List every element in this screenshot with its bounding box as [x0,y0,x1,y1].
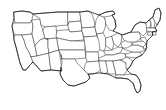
state-ar: Arkansas [86,52,99,62]
us-outline-map-figure: WashingtonOregonCaliforniaNevadaIdahoMon… [0,0,166,110]
state-wa: Washington [14,11,33,23]
us-map-svg: WashingtonOregonCaliforniaNevadaIdahoMon… [0,0,166,110]
state-wy: Wyoming [43,26,57,39]
state-sd: South Dakota [68,21,82,32]
state-ok: Oklahoma [59,50,86,59]
state-ia: Iowa [82,27,97,37]
state-ri: Rhode Island [153,32,156,35]
